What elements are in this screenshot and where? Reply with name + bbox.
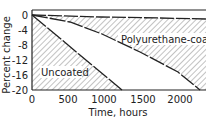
- svg-text:-20: -20: [12, 85, 28, 96]
- svg-text:500: 500: [58, 94, 77, 105]
- label-uncoated: Uncoated: [41, 67, 89, 78]
- y-axis-label: Percent change: [1, 16, 12, 94]
- svg-text:1500: 1500: [130, 94, 155, 105]
- svg-text:2000: 2000: [167, 94, 192, 105]
- svg-text:-16: -16: [12, 70, 28, 81]
- svg-text:-8: -8: [18, 40, 28, 51]
- y-ticks: 0 -4 -8 -12 -16 -20: [12, 10, 28, 96]
- x-axis-label: Time, hours: [88, 107, 148, 118]
- svg-text:0: 0: [29, 94, 35, 105]
- label-polyurethane: Polyurethane-coated: [121, 34, 206, 45]
- svg-text:0: 0: [22, 10, 28, 21]
- svg-text:-12: -12: [12, 55, 28, 66]
- svg-text:1000: 1000: [91, 94, 116, 105]
- svg-text:-4: -4: [18, 25, 28, 36]
- chart: 0 -4 -8 -12 -16 -20 0 500 1000 1500 2000…: [0, 0, 206, 122]
- x-ticks: 0 500 1000 1500 2000: [29, 94, 193, 105]
